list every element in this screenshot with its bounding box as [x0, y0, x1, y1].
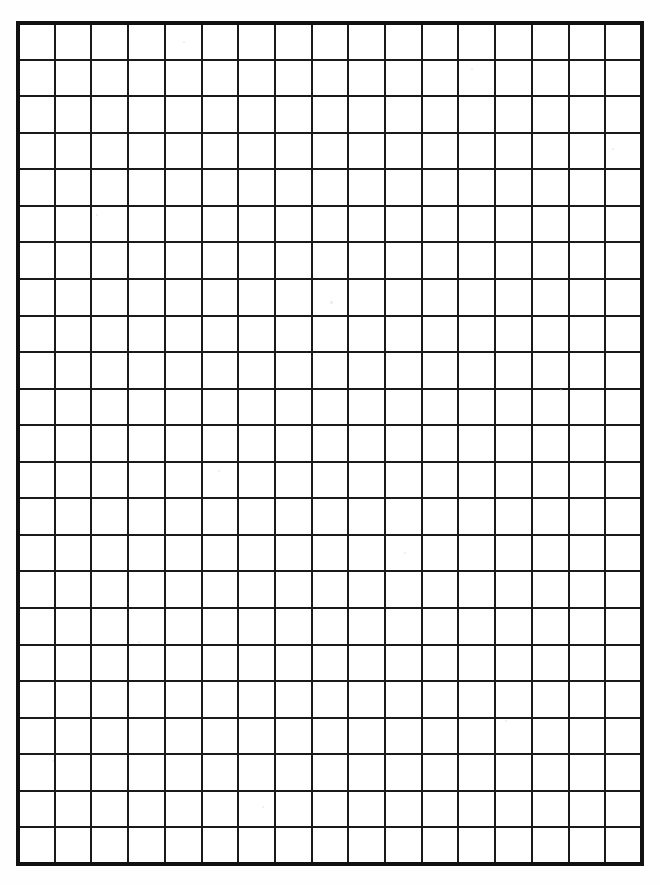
paper-speck — [52, 760, 54, 762]
paper-speck — [262, 806, 264, 808]
grid-paper-sheet — [18, 23, 642, 864]
paper-speck — [560, 389, 562, 391]
paper-speck — [330, 301, 333, 304]
paper-speck — [404, 552, 406, 554]
grid-inner-lines — [18, 23, 642, 864]
paper-speck — [471, 68, 473, 70]
paper-speck — [612, 148, 614, 150]
page-background — [0, 0, 660, 885]
